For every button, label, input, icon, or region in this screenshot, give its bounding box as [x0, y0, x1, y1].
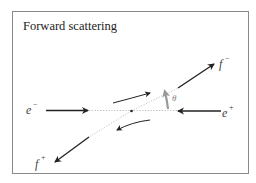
svg-text:+: +	[229, 103, 234, 112]
electron-label: e −	[26, 100, 38, 117]
rotation-arrow-upper	[113, 93, 150, 103]
svg-text:f: f	[35, 157, 40, 171]
diagram-frame	[13, 12, 249, 174]
interaction-point	[130, 110, 133, 113]
fermion-label: f −	[219, 54, 230, 71]
svg-text:−: −	[33, 100, 38, 109]
diagram-title: Forward scattering	[23, 19, 118, 33]
svg-text:e: e	[26, 103, 32, 117]
antifermion-outgoing-arrow	[55, 137, 89, 162]
forward-scattering-diagram: Forward scattering e − e + f − f + θ	[0, 0, 256, 183]
theta-angle-arrow	[165, 92, 168, 109]
positron-label: e +	[222, 103, 234, 120]
antifermion-label: f +	[35, 153, 46, 171]
scattering-axis-dotted-upper	[131, 88, 178, 111]
scattering-axis-dotted-lower	[89, 111, 131, 137]
svg-text:−: −	[225, 54, 230, 63]
svg-text:e: e	[222, 106, 228, 120]
theta-label: θ	[172, 93, 177, 103]
fermion-outgoing-arrow	[178, 64, 214, 88]
svg-text:f: f	[219, 57, 224, 71]
svg-text:+: +	[41, 153, 46, 162]
rotation-arrow-lower	[117, 120, 150, 130]
